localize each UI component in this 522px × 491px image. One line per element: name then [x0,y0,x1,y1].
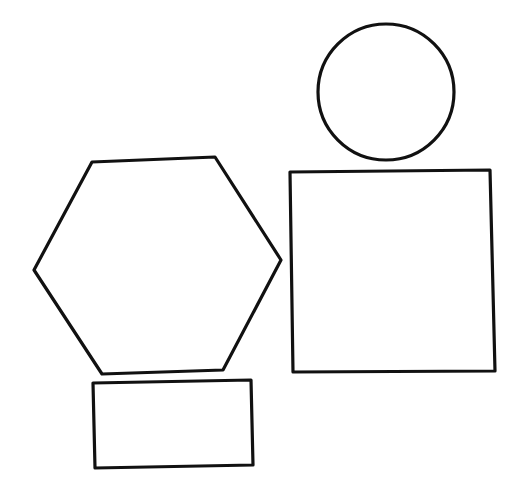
square-shape [290,170,495,372]
shapes-canvas [0,0,522,491]
hexagon-shape [34,157,281,374]
circle-shape [318,24,454,160]
rectangle-shape [93,380,253,468]
